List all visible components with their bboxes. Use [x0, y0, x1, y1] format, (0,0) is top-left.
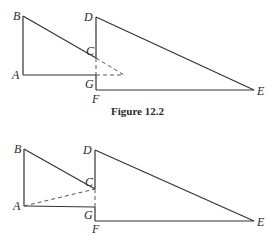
segment-ac-dashed-bottom [24, 189, 95, 206]
segment-de-top [96, 17, 254, 90]
segment-de-bottom [95, 150, 254, 221]
figure-canvas: B A D C G F E Figure 12.2 B A D C G F E [0, 0, 269, 235]
label-d-top: D [83, 10, 93, 24]
label-g-bottom: G [84, 208, 93, 222]
label-b-bottom: B [14, 142, 22, 156]
label-f-bottom: F [91, 222, 100, 235]
figure-caption: Figure 12.2 [111, 105, 164, 117]
label-b-top: B [13, 9, 21, 23]
segment-ag-bottom [24, 206, 95, 207]
label-e-top: E [256, 84, 265, 98]
label-c-bottom: C [85, 175, 94, 189]
figure-bottom: B A D C G F E [12, 142, 265, 235]
label-f-top: F [91, 92, 100, 106]
label-e-bottom: E [256, 215, 265, 229]
label-a-top: A [11, 68, 20, 82]
label-d-bottom: D [82, 143, 92, 157]
label-g-top: G [85, 77, 94, 91]
segment-cx-dashed-top [96, 58, 124, 75]
label-a-bottom: A [12, 199, 21, 213]
label-c-top: C [86, 44, 95, 58]
figure-top: B A D C G F E [11, 9, 265, 106]
